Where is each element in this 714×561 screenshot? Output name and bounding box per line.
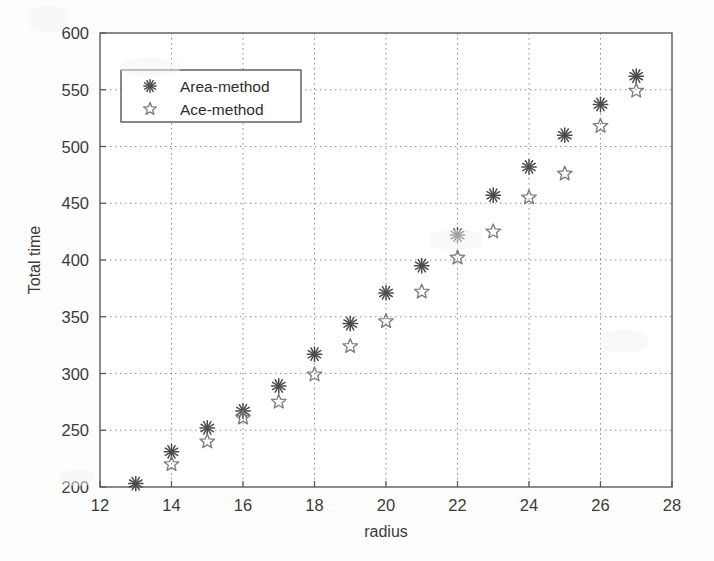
y-tick-label: 550 — [61, 81, 89, 99]
y-tick-label: 500 — [61, 138, 89, 156]
legend-label: Ace-method — [180, 101, 264, 118]
y-axis-label: Total time — [26, 226, 43, 295]
x-axis-label: radius — [364, 523, 408, 540]
y-tick-label: 300 — [61, 365, 89, 383]
chart-canvas: 1214161820222426282002503003504004505005… — [0, 0, 714, 561]
y-tick-label: 600 — [61, 24, 89, 42]
x-tick-label: 24 — [520, 496, 538, 514]
y-tick-label: 200 — [61, 478, 89, 496]
x-tick-label: 16 — [234, 496, 252, 514]
x-tick-label: 28 — [663, 496, 681, 514]
y-tick-label: 350 — [61, 308, 89, 326]
x-tick-label: 14 — [162, 496, 180, 514]
x-tick-label: 20 — [377, 496, 395, 514]
legend-label: Area-method — [180, 78, 270, 95]
legend: Area-methodAce-method — [121, 70, 301, 122]
x-tick-label: 26 — [591, 496, 609, 514]
x-tick-label: 22 — [448, 496, 466, 514]
y-tick-label: 400 — [61, 251, 89, 269]
x-tick-label: 18 — [305, 496, 323, 514]
scatter-plot-figure: 1214161820222426282002503003504004505005… — [0, 0, 714, 561]
x-tick-label: 12 — [91, 496, 109, 514]
y-tick-label: 450 — [61, 194, 89, 212]
y-tick-label: 250 — [61, 421, 89, 439]
